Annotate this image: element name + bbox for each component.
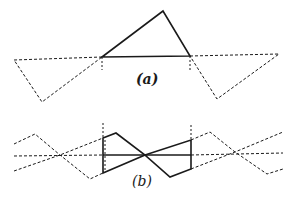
panel-a-label: (a) [136,71,158,87]
dashed-zigzag-left [14,134,103,179]
dashed-zigzag-right [191,132,283,174]
diagram-canvas [0,0,293,200]
panel-b-label: (b) [132,173,152,189]
panel-a [14,11,279,102]
dashed-line-right-high [191,132,283,169]
dashed-triangle-left [14,57,102,102]
solid-triangle [102,11,190,57]
panel-b [14,123,283,179]
bowtie-right-quad [145,140,191,177]
bowtie-left-quad [103,133,145,173]
dashed-triangle-right [190,54,279,99]
dashed-line-left-low [14,138,103,171]
